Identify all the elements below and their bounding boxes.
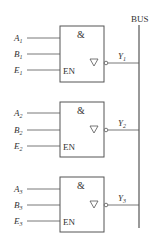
svg-text:EN: EN: [63, 66, 75, 76]
bus-label: BUS: [131, 14, 149, 24]
svg-text:E1: E1: [13, 65, 23, 76]
svg-text:Y1: Y1: [118, 51, 126, 62]
tristate-triangle-icon: [90, 201, 98, 208]
tristate-bus-diagram: BUS & EN Y1 A1 B1 E1 & EN Y2 A2 B2 E2 &: [0, 0, 157, 249]
gate-3: & EN Y3 A3 B3 E3: [13, 177, 139, 232]
svg-text:E2: E2: [13, 141, 23, 152]
svg-text:EN: EN: [63, 142, 75, 152]
svg-text:&: &: [77, 29, 85, 40]
svg-text:B1: B1: [14, 49, 23, 60]
svg-text:Y3: Y3: [118, 193, 126, 204]
svg-text:EN: EN: [63, 217, 75, 227]
gate-2: & EN Y2 A2 B2 E2: [13, 102, 139, 157]
svg-text:A2: A2: [13, 108, 23, 119]
tristate-triangle-icon: [90, 126, 98, 133]
inverter-bubble-icon: [104, 203, 108, 207]
inverter-bubble-icon: [104, 128, 108, 132]
svg-text:B3: B3: [14, 200, 23, 211]
svg-text:A1: A1: [13, 33, 23, 44]
svg-text:&: &: [77, 180, 85, 191]
svg-text:B2: B2: [14, 125, 23, 136]
inverter-bubble-icon: [104, 61, 108, 65]
svg-text:Y2: Y2: [118, 118, 126, 129]
svg-text:E3: E3: [13, 216, 23, 227]
gate-1: & EN Y1 A1 B1 E1: [13, 26, 139, 82]
tristate-triangle-icon: [90, 59, 98, 66]
svg-text:A3: A3: [13, 184, 23, 195]
svg-text:&: &: [77, 105, 85, 116]
